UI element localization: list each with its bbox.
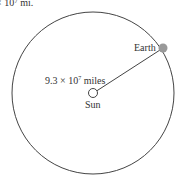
sun-icon — [89, 89, 98, 98]
radius-mantissa: 9.3 × 10 — [45, 75, 78, 86]
sun-label: Sun — [85, 99, 101, 110]
top-text-fragment: × 10⁷ mi. — [0, 0, 33, 8]
radius-unit: miles — [81, 75, 105, 86]
earth-icon — [159, 44, 168, 53]
radius-label: 9.3 × 107 miles — [45, 75, 105, 86]
orbit-diagram: × 10⁷ mi. Earth Sun 9.3 × 107 miles — [0, 0, 183, 176]
orbit-radius-line — [97, 50, 161, 91]
earth-label: Earth — [134, 42, 156, 53]
